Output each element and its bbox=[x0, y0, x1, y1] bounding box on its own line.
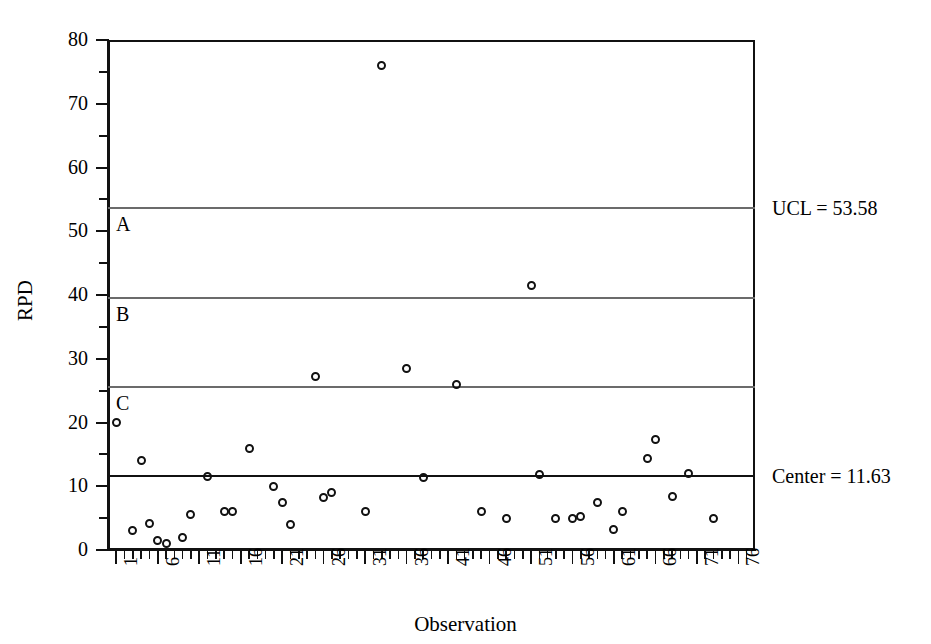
x-tick-major bbox=[157, 551, 159, 564]
x-tick-major bbox=[115, 551, 117, 564]
y-tick-minor bbox=[99, 326, 108, 328]
zone-line-a-lower bbox=[108, 297, 755, 299]
x-tick-label: 41 bbox=[454, 548, 472, 566]
y-tick-major bbox=[96, 103, 108, 105]
y-tick-major bbox=[96, 294, 108, 296]
data-point bbox=[593, 498, 602, 507]
x-tick-label: 61 bbox=[620, 548, 638, 566]
zone-line-ucl bbox=[108, 207, 755, 209]
x-tick-major bbox=[530, 551, 532, 564]
y-tick-minor bbox=[99, 390, 108, 392]
x-tick-minor bbox=[646, 551, 648, 559]
x-tick-major bbox=[364, 551, 366, 564]
y-tick-label: 30 bbox=[0, 348, 88, 368]
zone-label-a: A bbox=[116, 214, 130, 234]
x-tick-major bbox=[738, 551, 740, 564]
x-tick-minor bbox=[190, 551, 192, 559]
y-tick-minor bbox=[99, 135, 108, 137]
data-point bbox=[527, 281, 536, 290]
x-tick-minor bbox=[605, 551, 607, 559]
x-tick-label: 36 bbox=[413, 548, 431, 566]
x-tick-minor bbox=[273, 551, 275, 559]
x-tick-label: 66 bbox=[661, 548, 679, 566]
ucl-annotation: UCL = 53.58 bbox=[772, 197, 878, 220]
y-tick-label: 60 bbox=[0, 157, 88, 177]
y-tick-major bbox=[96, 230, 108, 232]
y-axis-title-wrap: RPD bbox=[8, 250, 42, 360]
data-point bbox=[651, 435, 660, 444]
data-point bbox=[361, 507, 370, 516]
data-point bbox=[162, 539, 171, 548]
y-tick-major bbox=[96, 422, 108, 424]
data-point bbox=[311, 372, 320, 381]
x-tick-minor bbox=[315, 551, 317, 559]
x-tick-minor bbox=[439, 551, 441, 559]
data-point bbox=[709, 514, 718, 523]
y-tick-minor bbox=[99, 517, 108, 519]
data-point bbox=[452, 380, 461, 389]
x-tick-minor bbox=[480, 551, 482, 559]
data-point bbox=[112, 418, 121, 427]
y-tick-minor bbox=[99, 453, 108, 455]
x-tick-label: 16 bbox=[247, 548, 265, 566]
x-tick-label: 46 bbox=[496, 548, 514, 566]
y-tick-label: 50 bbox=[0, 220, 88, 240]
x-tick-major bbox=[447, 551, 449, 564]
control-chart-figure: RPD 010203040506070801611162126313641465… bbox=[0, 0, 931, 644]
x-tick-label: 1 bbox=[122, 557, 140, 566]
y-tick-label: 70 bbox=[0, 93, 88, 113]
y-tick-label: 80 bbox=[0, 29, 88, 49]
x-tick-major bbox=[655, 551, 657, 564]
x-tick-label: 71 bbox=[703, 548, 721, 566]
data-point bbox=[618, 507, 627, 516]
data-point bbox=[502, 514, 511, 523]
data-point bbox=[228, 507, 237, 516]
x-axis-title: Observation bbox=[0, 612, 931, 637]
x-tick-minor bbox=[356, 551, 358, 559]
x-tick-major bbox=[572, 551, 574, 564]
y-tick-label: 10 bbox=[0, 475, 88, 495]
x-tick-label: 31 bbox=[371, 548, 389, 566]
data-point bbox=[278, 498, 287, 507]
y-tick-major bbox=[96, 485, 108, 487]
x-tick-minor bbox=[688, 551, 690, 559]
x-tick-minor bbox=[398, 551, 400, 559]
x-tick-label: 26 bbox=[330, 548, 348, 566]
x-tick-major bbox=[406, 551, 408, 564]
y-tick-minor bbox=[99, 71, 108, 73]
x-tick-major bbox=[696, 551, 698, 564]
x-tick-label: 6 bbox=[164, 557, 182, 566]
x-tick-major bbox=[613, 551, 615, 564]
zone-line-b-lower bbox=[108, 386, 755, 388]
x-tick-minor bbox=[563, 551, 565, 559]
x-tick-major bbox=[281, 551, 283, 564]
y-tick-label: 0 bbox=[0, 539, 88, 559]
y-tick-major bbox=[96, 39, 108, 41]
y-tick-label: 20 bbox=[0, 412, 88, 432]
x-tick-label: 21 bbox=[288, 548, 306, 566]
center-annotation: Center = 11.63 bbox=[772, 465, 891, 488]
x-tick-minor bbox=[522, 551, 524, 559]
data-point bbox=[286, 520, 295, 529]
x-tick-major bbox=[489, 551, 491, 564]
y-tick-major bbox=[96, 358, 108, 360]
x-tick-minor bbox=[729, 551, 731, 559]
x-tick-label: 51 bbox=[537, 548, 555, 566]
x-tick-minor bbox=[149, 551, 151, 559]
y-tick-label: 40 bbox=[0, 284, 88, 304]
data-point bbox=[245, 444, 254, 453]
x-tick-label: 11 bbox=[205, 549, 223, 566]
x-tick-label: 56 bbox=[579, 548, 597, 566]
data-point bbox=[137, 456, 146, 465]
zone-label-c: C bbox=[116, 393, 129, 413]
data-point bbox=[178, 533, 187, 542]
x-tick-label: 76 bbox=[744, 548, 762, 566]
x-tick-minor bbox=[232, 551, 234, 559]
x-tick-major bbox=[323, 551, 325, 564]
x-tick-major bbox=[240, 551, 242, 564]
y-tick-minor bbox=[99, 198, 108, 200]
data-point bbox=[477, 507, 486, 516]
y-tick-minor bbox=[99, 262, 108, 264]
zone-label-b: B bbox=[116, 304, 129, 324]
data-point bbox=[668, 492, 677, 501]
